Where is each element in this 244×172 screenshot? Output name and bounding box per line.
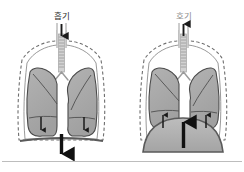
panel-inhalation: 흡기	[18, 11, 105, 154]
diagram-canvas: 흡기	[0, 0, 244, 172]
lung-right	[67, 68, 97, 136]
respiration-diagram: 흡기	[0, 0, 244, 172]
panel-label-inhalation: 흡기	[54, 11, 70, 21]
panel-label-exhalation: 호기	[176, 11, 192, 21]
panel-exhalation: 호기	[140, 11, 227, 152]
lung-left	[27, 68, 57, 136]
